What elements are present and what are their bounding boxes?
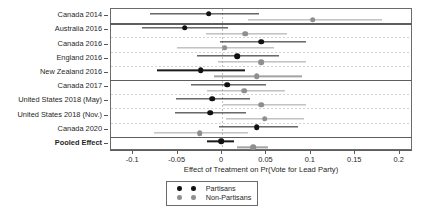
- grid-line: [111, 66, 411, 67]
- y-axis-tick: [104, 44, 108, 45]
- x-axis-tick: [399, 150, 400, 154]
- legend-dot-icon: [191, 186, 196, 191]
- x-axis-tick-label: 0.2: [394, 155, 404, 164]
- estimate-point-marker: [258, 102, 264, 108]
- x-axis-tick: [221, 150, 222, 154]
- legend: Partisans Non-Partisans: [0, 181, 424, 206]
- y-axis-label: England 2016: [56, 54, 102, 62]
- estimate-point-marker: [209, 96, 215, 102]
- legend-box: Partisans Non-Partisans: [166, 181, 259, 206]
- x-axis-tick: [354, 150, 355, 154]
- y-axis-tick: [104, 72, 108, 73]
- plot-inner-area: [111, 9, 411, 149]
- grid-line: [111, 123, 411, 124]
- estimate-point-marker: [258, 39, 264, 45]
- estimate-point-marker: [198, 68, 204, 74]
- y-axis-label: Canada 2017: [58, 82, 102, 90]
- section-divider: [110, 137, 412, 138]
- legend-dot-icon: [191, 195, 196, 200]
- x-axis-tick: [310, 150, 311, 154]
- y-axis-tick: [104, 15, 108, 16]
- x-axis-tick-label: -0.05: [168, 155, 185, 164]
- section-divider: [110, 80, 412, 81]
- y-axis-label: United States 2018 (Nov.): [18, 111, 103, 119]
- estimate-point-marker: [218, 139, 224, 145]
- y-axis-label: Canada 2016: [58, 40, 102, 48]
- estimate-point-marker: [254, 124, 260, 130]
- estimate-point-marker: [222, 45, 228, 51]
- y-axis-label: Australia 2016: [55, 25, 102, 33]
- estimate-point-marker: [254, 74, 260, 80]
- x-axis-tick-label: 0.1: [305, 155, 315, 164]
- y-axis-tick: [104, 115, 108, 116]
- x-axis-tick: [132, 150, 133, 154]
- y-axis-label: United States 2018 (May): [18, 96, 102, 104]
- y-axis-tick: [104, 100, 108, 101]
- y-axis-label: Canada 2020: [58, 125, 102, 133]
- y-axis-tick: [104, 29, 108, 30]
- legend-item-partisans: Partisans: [173, 184, 252, 193]
- x-axis-title: Effect of Treatment on Pr(Vote for Lead …: [110, 165, 412, 174]
- x-axis-line: [110, 150, 412, 151]
- y-axis-tick: [104, 58, 108, 59]
- estimate-point-marker: [241, 88, 247, 94]
- estimate-point-marker: [242, 31, 248, 37]
- estimate-point-marker: [262, 116, 268, 122]
- zero-reference-line: [222, 9, 223, 149]
- estimate-point-marker: [310, 17, 316, 23]
- y-axis-tick: [104, 143, 108, 144]
- x-axis-tick: [177, 150, 178, 154]
- confidence-interval-bar: [223, 104, 306, 105]
- section-divider: [110, 23, 412, 24]
- plot-panel: [110, 8, 412, 150]
- legend-item-non-partisans: Non-Partisans: [173, 193, 252, 202]
- forest-plot-figure: Canada 2014Australia 2016Canada 2016Engl…: [0, 0, 424, 211]
- legend-dot-icon: [177, 186, 182, 191]
- legend-swatch-non-partisans: [173, 195, 201, 200]
- estimate-point-marker: [258, 59, 264, 65]
- confidence-interval-bar: [150, 13, 259, 14]
- legend-swatch-partisans: [173, 186, 201, 191]
- y-axis-tick: [104, 86, 108, 87]
- y-axis-tick: [104, 129, 108, 130]
- estimate-point-marker: [225, 82, 231, 88]
- grid-line: [111, 94, 411, 95]
- estimate-point-marker: [234, 53, 240, 59]
- legend-dot-icon: [177, 195, 182, 200]
- x-axis-tick: [265, 150, 266, 154]
- legend-label-non-partisans: Non-Partisans: [206, 193, 252, 202]
- grid-line: [111, 108, 411, 109]
- x-axis-tick-label: 0.15: [347, 155, 361, 164]
- y-axis-label: New Zealand 2016: [40, 68, 102, 76]
- legend-label-partisans: Partisans: [206, 184, 236, 193]
- y-axis-label: Pooled Effect: [55, 139, 102, 147]
- y-axis-label-group: Canada 2014Australia 2016Canada 2016Engl…: [0, 0, 108, 150]
- estimate-point-marker: [208, 110, 214, 116]
- x-axis-tick-label: -0.1: [126, 155, 139, 164]
- grid-line: [111, 52, 411, 53]
- estimate-point-marker: [206, 11, 212, 17]
- x-axis-tick-label: 0.05: [258, 155, 272, 164]
- estimate-point-marker: [182, 25, 188, 31]
- estimate-point-marker: [197, 130, 203, 136]
- x-axis-tick-label: 0: [219, 155, 223, 164]
- y-axis-label: Canada 2014: [58, 11, 102, 19]
